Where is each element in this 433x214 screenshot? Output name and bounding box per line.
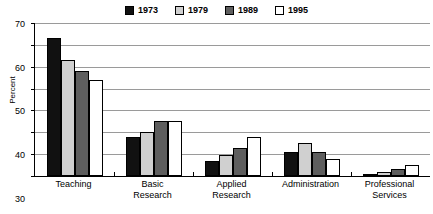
legend-label-1995: 1995 [288, 6, 308, 15]
legend-entry-1973: 1973 [125, 6, 158, 15]
legend-label-1989: 1989 [238, 6, 258, 15]
bar-1979-professional-services [377, 172, 391, 176]
y-tick-label-30: 30 [15, 194, 25, 203]
bar-group-teaching [35, 23, 114, 176]
bar-1973-applied-research [205, 161, 219, 176]
category-separator-3 [272, 172, 273, 176]
bar-1973-teaching [47, 38, 61, 176]
bar-1973-professional-services [363, 174, 377, 176]
x-axis-labels: TeachingBasicResearchAppliedResearchAdmi… [34, 179, 429, 213]
bar-1995-professional-services [405, 165, 419, 176]
y-tick-label-60: 60 [15, 63, 25, 72]
bar-1989-teaching [75, 71, 89, 176]
legend-label-1979: 1979 [188, 6, 208, 15]
x-label-line: Research [192, 190, 271, 201]
bar-group-basic-research [114, 23, 193, 176]
bars-layer [35, 23, 430, 176]
bar-1995-teaching [89, 80, 103, 176]
legend-entry-1979: 1979 [175, 6, 208, 15]
legend-entry-1989: 1989 [225, 6, 258, 15]
bar-chart: 1973197919891995 Percent 010203040506070… [0, 0, 433, 214]
bar-1979-applied-research [219, 155, 233, 176]
y-tick-label-50: 50 [15, 107, 25, 116]
plot-area: 010203040506070 [34, 23, 430, 177]
bar-1989-administration [312, 152, 326, 176]
bar-1989-applied-research [233, 148, 247, 176]
bar-1995-applied-research [247, 137, 261, 176]
chart-legend: 1973197919891995 [0, 2, 433, 18]
y-tick-label-70: 70 [15, 20, 25, 29]
bar-group-applied-research [193, 23, 272, 176]
x-label-line: Basic [113, 179, 192, 190]
bar-1979-administration [298, 143, 312, 176]
x-label-line: Professional [350, 179, 429, 190]
legend-swatch-1973 [125, 6, 134, 15]
category-separator-1 [114, 172, 115, 176]
x-label-professional-services: ProfessionalServices [350, 179, 429, 201]
x-label-applied-research: AppliedResearch [192, 179, 271, 201]
x-label-line: Research [113, 190, 192, 201]
x-label-line: Services [350, 190, 429, 201]
x-label-line: Applied [192, 179, 271, 190]
category-separator-2 [193, 172, 194, 176]
legend-label-1973: 1973 [138, 6, 158, 15]
bar-1973-administration [284, 152, 298, 176]
bar-1989-basic-research [154, 121, 168, 176]
x-label-teaching: Teaching [34, 179, 113, 190]
bar-group-administration [272, 23, 351, 176]
x-label-administration: Administration [271, 179, 350, 190]
legend-swatch-1989 [225, 6, 234, 15]
y-tick-label-40: 40 [15, 151, 25, 160]
x-label-line: Teaching [34, 179, 113, 190]
y-tick-0: 0 [31, 176, 35, 177]
bar-1979-teaching [61, 60, 75, 176]
bar-1995-administration [326, 159, 340, 176]
bar-1979-basic-research [140, 132, 154, 176]
bar-1973-basic-research [126, 137, 140, 176]
legend-swatch-1979 [175, 6, 184, 15]
bar-group-professional-services [351, 23, 430, 176]
x-label-line: Administration [271, 179, 350, 190]
legend-entry-1995: 1995 [275, 6, 308, 15]
legend-swatch-1995 [275, 6, 284, 15]
bar-1995-basic-research [168, 121, 182, 176]
bar-1989-professional-services [391, 169, 405, 176]
category-separator-4 [351, 172, 352, 176]
x-label-basic-research: BasicResearch [113, 179, 192, 201]
